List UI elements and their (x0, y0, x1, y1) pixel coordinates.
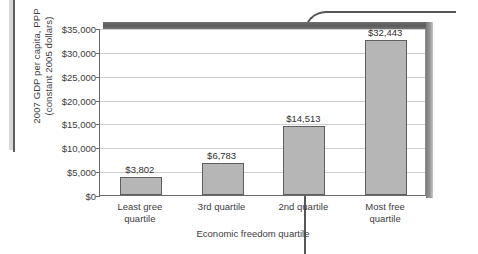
y-tickmark (96, 101, 100, 102)
y-tickmark (96, 196, 100, 197)
y-tick-label: $5,000 (67, 167, 96, 178)
bar (283, 126, 325, 195)
y-tickmark (96, 124, 100, 125)
category-label: Least gree quartile (95, 201, 185, 224)
x-axis-title-wrap: Economic freedom quartile (0, 228, 478, 239)
y-tick-label: $35,000 (62, 24, 96, 35)
y-tick-label: $20,000 (62, 95, 96, 106)
y-tick-label: $0 (85, 191, 96, 202)
category-label: 3rd quartile (177, 201, 267, 213)
x-axis-title: Economic freedom quartile (197, 228, 310, 239)
bar (365, 40, 407, 195)
y-tick-label: $15,000 (62, 119, 96, 130)
y-tick-label: $30,000 (62, 47, 96, 58)
bar-value-label: $14,513 (286, 113, 320, 124)
y-tickmark (96, 148, 100, 149)
bar-value-label: $3,802 (125, 164, 154, 175)
y-tick-label: $25,000 (62, 71, 96, 82)
y-tickmark (96, 172, 100, 173)
bar-value-label: $6,783 (207, 150, 236, 161)
bar-value-label: $32,443 (368, 27, 402, 38)
y-tick-label: $10,000 (62, 143, 96, 154)
category-label: 2nd quartile (258, 201, 348, 213)
bar (120, 177, 162, 195)
y-tickmark (96, 29, 100, 30)
y-axis-tick-labels: $0$5,000$10,000$15,000$20,000$25,000$30,… (44, 0, 96, 250)
plot-right-3d-band (426, 22, 433, 198)
y-tickmark (96, 53, 100, 54)
category-label: Most free quartile (340, 201, 430, 224)
y-tickmark (96, 77, 100, 78)
bar (202, 163, 244, 195)
